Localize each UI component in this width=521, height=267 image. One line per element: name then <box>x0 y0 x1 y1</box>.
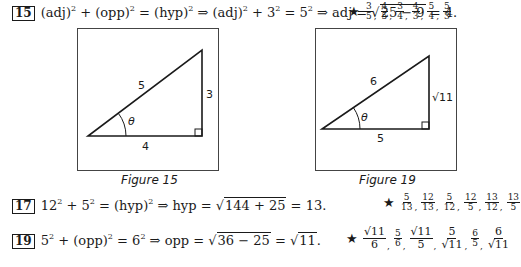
square-root: √36 − 25 <box>208 233 271 249</box>
math-text: 12 <box>41 198 58 213</box>
math-text: = (hyp) <box>95 198 148 213</box>
problem-15-answers: ★ 35, 45, 34, 43, 54, 53 <box>348 2 452 21</box>
math-text: + (opp) <box>54 233 108 248</box>
math-text: = (hyp) <box>135 5 188 20</box>
denominator: 4 <box>427 12 435 21</box>
math-text: + 5 <box>62 198 89 213</box>
hypotenuse-label: 6 <box>370 75 377 88</box>
figure-15-caption: Figure 15 <box>121 173 178 187</box>
denominator: 12 <box>443 203 456 212</box>
math-text: . <box>317 233 321 248</box>
math-text: = 5 <box>280 5 307 20</box>
opposite-label: 3 <box>206 88 213 101</box>
fraction: 43 <box>412 2 420 21</box>
radical-sign: √ <box>208 233 216 248</box>
fraction: 56 <box>394 229 402 248</box>
denominator: 4 <box>396 12 404 21</box>
problem-number: 17 <box>12 199 35 214</box>
problem-number: 19 <box>12 234 35 249</box>
denominator: 5 <box>417 239 426 251</box>
fraction: √115 <box>410 226 433 251</box>
denominator: 13 <box>421 203 434 212</box>
fraction: 125 <box>464 193 477 212</box>
radicand: 36 − 25 <box>217 232 271 248</box>
fraction: 54 <box>427 2 435 21</box>
square-root: √11 <box>290 233 317 249</box>
fraction: 53 <box>443 2 451 21</box>
figure-15-box: 5 3 4 θ <box>77 28 219 171</box>
denominator: 13 <box>400 203 413 212</box>
fraction: 35 <box>365 2 373 21</box>
math-text: = 13. <box>286 198 326 213</box>
fraction: 34 <box>396 2 404 21</box>
hypotenuse-label: 5 <box>138 79 145 92</box>
fraction: 512 <box>443 193 456 212</box>
triangle-diagram-19: 6 √11 5 θ <box>316 29 456 170</box>
adjacent-label: 4 <box>142 140 149 153</box>
theta-label: θ <box>361 111 368 124</box>
math-text: = 6 <box>113 233 140 248</box>
math-text: = <box>271 233 290 248</box>
denominator: 12 <box>485 203 498 212</box>
denominator: 6 <box>370 239 379 251</box>
triangle-diagram-15: 5 3 4 θ <box>78 29 218 170</box>
problem-number: 15 <box>12 6 35 21</box>
fraction: 5√11 <box>440 226 463 251</box>
fraction: 135 <box>507 193 520 212</box>
fraction: 513 <box>400 193 413 212</box>
radicand: 11 <box>298 232 317 248</box>
adjacent-label: 5 <box>377 132 384 145</box>
math-text: ⇒ (adj) <box>193 5 242 20</box>
denominator: √11 <box>487 239 510 251</box>
star-icon: ★ <box>383 195 395 210</box>
fraction: 6√11 <box>487 226 510 251</box>
math-text: + (opp) <box>76 5 130 20</box>
fraction: 1312 <box>485 193 498 212</box>
fraction: 65 <box>471 229 479 248</box>
denominator: 5 <box>365 12 373 21</box>
problem-17-answers: ★ 513, 1213, 512, 125, 1312, 135 <box>383 193 521 212</box>
denominator: 3 <box>412 12 420 21</box>
figure-19-caption: Figure 19 <box>359 173 416 187</box>
math-text: (adj) <box>41 5 71 20</box>
star-icon: ★ <box>348 4 360 19</box>
denominator: 5 <box>471 239 479 248</box>
figure-19-box: 6 √11 5 θ <box>315 28 457 171</box>
denominator: 6 <box>394 239 402 248</box>
denominator: 3 <box>443 12 451 21</box>
fraction: 1213 <box>421 193 434 212</box>
math-text: 5 <box>41 233 49 248</box>
opposite-label: √11 <box>432 91 453 104</box>
radical-sign: √ <box>216 198 224 213</box>
fraction: √116 <box>363 226 386 251</box>
math-text: ⇒ opp = <box>145 233 208 248</box>
square-root: √144 + 25 <box>216 198 287 214</box>
denominator: 5 <box>510 203 518 212</box>
denominator: 5 <box>381 12 389 21</box>
star-icon: ★ <box>346 231 358 246</box>
denominator: 5 <box>467 203 475 212</box>
problem-19-answers: ★ √116, 56, √115, 5√11, 65, 6√11 <box>346 226 511 251</box>
radicand: 144 + 25 <box>224 197 287 213</box>
math-text: ⇒ hyp = <box>153 198 215 213</box>
problem-17-solution: 17122 + 52 = (hyp)2 ⇒ hyp = √144 + 25 = … <box>12 198 326 214</box>
theta-label: θ <box>128 115 135 128</box>
math-text: + 3 <box>248 5 275 20</box>
fraction: 45 <box>381 2 389 21</box>
problem-19-solution: 1952 + (opp)2 = 62 ⇒ opp = √36 − 25 = √1… <box>12 233 321 249</box>
denominator: √11 <box>440 239 463 251</box>
